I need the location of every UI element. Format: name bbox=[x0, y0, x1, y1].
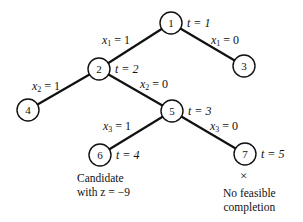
edge-label-1-2: x1 = 1 bbox=[102, 34, 130, 48]
svg-text:6: 6 bbox=[97, 149, 103, 161]
t-label-node-5: t = 3 bbox=[188, 105, 211, 117]
t-label-node-7: t = 5 bbox=[261, 148, 284, 160]
t-label-node-6: t = 4 bbox=[116, 149, 139, 161]
svg-text:5: 5 bbox=[169, 105, 175, 117]
node-4: 4 bbox=[17, 99, 39, 121]
svg-text:3: 3 bbox=[241, 60, 247, 72]
node-5: 5 bbox=[161, 100, 183, 122]
svg-text:4: 4 bbox=[25, 104, 31, 116]
edge-label-5-6: x3 = 1 bbox=[103, 120, 131, 134]
svg-text:1: 1 bbox=[168, 17, 174, 29]
edge-label-1-3: x1 = 0 bbox=[211, 34, 239, 48]
edge-label-2-5: x2 = 0 bbox=[140, 78, 168, 92]
edge-label-5-7: x3 = 0 bbox=[210, 120, 238, 134]
node-2: 2 bbox=[88, 58, 110, 80]
infeasible-x-mark-icon: × bbox=[240, 169, 247, 182]
node-7: 7 bbox=[234, 143, 256, 165]
node-1: 1 bbox=[160, 12, 182, 34]
svg-text:2: 2 bbox=[96, 63, 102, 75]
node-6: 6 bbox=[89, 144, 111, 166]
t-label-node-2: t = 2 bbox=[115, 63, 138, 75]
node-3: 3 bbox=[233, 55, 255, 77]
candidate-note: Candidate with z = −9 bbox=[77, 171, 130, 199]
infeasible-note: No feasible completion bbox=[223, 186, 276, 214]
branch-and-bound-diagram: 1 2 3 4 5 6 7 t = 1 t = 2 t = 3 t = 4 t bbox=[0, 0, 303, 222]
edge-label-2-4: x2 = 1 bbox=[32, 80, 60, 94]
svg-text:7: 7 bbox=[242, 148, 248, 160]
t-label-node-1: t = 1 bbox=[187, 17, 210, 29]
